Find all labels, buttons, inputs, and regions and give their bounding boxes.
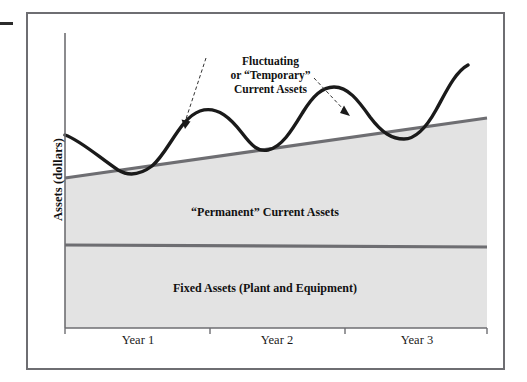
plot-area: Assets (dollars) Year 1 Year 2 Year 3 Fl… [0, 0, 527, 382]
x-tick-label-year-2: Year 2 [232, 333, 322, 348]
x-tick-label-year-3: Year 3 [372, 333, 462, 348]
figure-root: Assets (dollars) Year 1 Year 2 Year 3 Fl… [0, 0, 527, 382]
y-axis-label: Assets (dollars) [51, 100, 66, 260]
callout-line-3: Current Assets [183, 82, 358, 96]
fixed-assets-label: Fixed Assets (Plant and Equipment) [110, 281, 420, 296]
fixed-assets-boundary-line [65, 245, 487, 247]
callout-line-1: Fluctuating [183, 54, 358, 68]
permanent-current-assets-band [65, 118, 487, 247]
x-tick-label-year-1: Year 1 [93, 333, 183, 348]
fluctuating-assets-callout: Fluctuating or “Temporary” Current Asset… [183, 54, 358, 96]
permanent-current-assets-label: “Permanent” Current Assets [120, 205, 410, 220]
callout-line-2: or “Temporary” [183, 68, 358, 82]
